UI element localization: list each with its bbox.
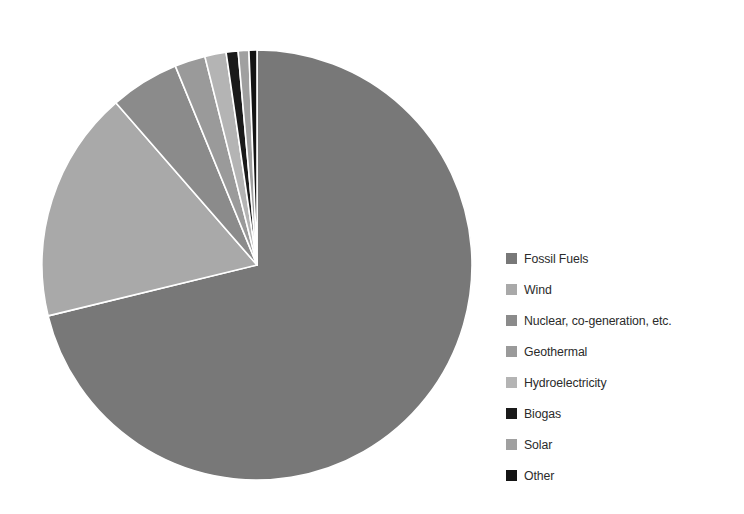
pie-chart-figure: Fossil FuelsWindNuclear, co-generation, …: [0, 0, 744, 514]
legend-item[interactable]: Hydroelectricity: [506, 367, 730, 398]
legend-item-label: Fossil Fuels: [524, 252, 588, 266]
legend-item[interactable]: Fossil Fuels: [506, 243, 730, 274]
legend-item-label: Nuclear, co-generation, etc.: [524, 314, 672, 328]
legend-swatch-icon: [506, 408, 517, 419]
legend-item-label: Wind: [524, 283, 552, 297]
legend-item-label: Other: [524, 469, 554, 483]
legend-item-label: Hydroelectricity: [524, 376, 606, 390]
legend-item[interactable]: Solar: [506, 429, 730, 460]
legend-item[interactable]: Wind: [506, 274, 730, 305]
legend-swatch-icon: [506, 439, 517, 450]
pie-slice-group: [42, 50, 472, 480]
legend-swatch-icon: [506, 377, 517, 388]
legend-swatch-icon: [506, 315, 517, 326]
legend-item[interactable]: Biogas: [506, 398, 730, 429]
legend-swatch-icon: [506, 346, 517, 357]
legend-item-label: Solar: [524, 438, 552, 452]
legend-swatch-icon: [506, 470, 517, 481]
legend-item[interactable]: Other: [506, 460, 730, 491]
legend-item[interactable]: Nuclear, co-generation, etc.: [506, 305, 730, 336]
legend-item-label: Geothermal: [524, 345, 587, 359]
pie-plot-area: [30, 24, 490, 494]
legend-swatch-icon: [506, 284, 517, 295]
legend-swatch-icon: [506, 253, 517, 264]
pie-svg: [30, 24, 490, 494]
legend-item[interactable]: Geothermal: [506, 336, 730, 367]
chart-legend: Fossil FuelsWindNuclear, co-generation, …: [506, 243, 730, 491]
legend-item-label: Biogas: [524, 407, 561, 421]
